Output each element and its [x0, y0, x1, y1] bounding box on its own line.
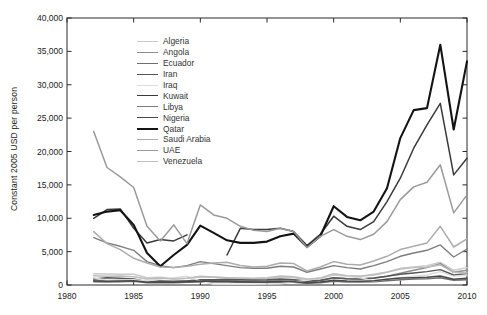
- legend-swatch: [137, 41, 158, 42]
- legend-item-qatar: Qatar: [137, 123, 211, 134]
- legend-swatch: [137, 161, 158, 162]
- legend-item-venezuela: Venezuela: [137, 156, 211, 167]
- legend-label: Qatar: [163, 124, 184, 134]
- x-tick-label: 1990: [183, 291, 217, 301]
- legend-label: Iran: [163, 69, 177, 79]
- legend-label: Libya: [163, 102, 183, 112]
- y-tick-label: 15,000: [17, 180, 63, 190]
- plot-area: [0, 0, 487, 315]
- y-tick-label: 5,000: [17, 247, 63, 257]
- y-tick-label: 10,000: [17, 213, 63, 223]
- legend-swatch: [137, 74, 158, 75]
- legend-label: Ecuador: [163, 58, 194, 68]
- y-tick-label: 40,000: [17, 13, 63, 23]
- legend-swatch: [137, 85, 158, 86]
- legend-label: Nigeria: [163, 113, 190, 123]
- legend-swatch: [137, 95, 158, 96]
- y-tick-label: 0: [17, 280, 63, 290]
- x-tick-label: 2000: [317, 291, 351, 301]
- legend-swatch: [137, 139, 158, 140]
- legend-label: Angola: [163, 47, 189, 57]
- chart-figure: Constant 2005 USD per person AlgeriaAngo…: [0, 0, 487, 315]
- x-tick-label: 1980: [50, 291, 84, 301]
- legend-item-algeria: Algeria: [137, 36, 211, 47]
- axes-box: [67, 18, 467, 285]
- legend-item-libya: Libya: [137, 101, 211, 112]
- legend-item-kuwait: Kuwait: [137, 90, 211, 101]
- x-tick-label: 1985: [117, 291, 151, 301]
- legend-label: Algeria: [163, 36, 189, 46]
- series-line-saudi-arabia: [94, 226, 467, 271]
- legend-label: Saudi Arabia: [163, 134, 211, 144]
- legend-swatch: [137, 106, 158, 107]
- legend-swatch: [137, 117, 158, 118]
- legend-label: Venezuela: [163, 156, 202, 166]
- legend-item-uae: UAE: [137, 145, 211, 156]
- legend: AlgeriaAngolaEcuadorIranIraqKuwaitLibyaN…: [137, 36, 211, 167]
- legend-item-saudi-arabia: Saudi Arabia: [137, 134, 211, 145]
- legend-item-iran: Iran: [137, 69, 211, 80]
- legend-item-angola: Angola: [137, 47, 211, 58]
- legend-item-iraq: Iraq: [137, 80, 211, 91]
- legend-swatch: [137, 63, 158, 64]
- y-tick-label: 30,000: [17, 80, 63, 90]
- legend-item-nigeria: Nigeria: [137, 112, 211, 123]
- y-tick-label: 20,000: [17, 147, 63, 157]
- legend-swatch: [137, 150, 158, 151]
- legend-item-ecuador: Ecuador: [137, 58, 211, 69]
- y-tick-label: 25,000: [17, 113, 63, 123]
- x-tick-label: 1995: [250, 291, 284, 301]
- y-tick-label: 35,000: [17, 46, 63, 56]
- legend-label: Iraq: [163, 80, 177, 90]
- legend-label: Kuwait: [163, 91, 188, 101]
- legend-swatch: [137, 128, 158, 130]
- legend-label: UAE: [163, 145, 180, 155]
- x-tick-label: 2010: [450, 291, 484, 301]
- x-tick-label: 2005: [383, 291, 417, 301]
- legend-swatch: [137, 52, 158, 53]
- series-line-kuwait: [227, 103, 467, 255]
